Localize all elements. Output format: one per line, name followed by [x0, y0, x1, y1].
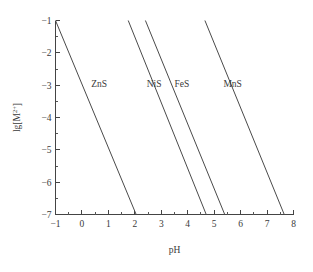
y-tick-label: −6 [41, 178, 51, 188]
x-tick-label: 8 [291, 219, 296, 229]
y-axis-ticks [56, 21, 61, 215]
series-label-fes: FeS [175, 79, 190, 89]
x-axis-title: pH [169, 245, 181, 255]
x-tick-label: 1 [106, 219, 111, 229]
x-tick-label: 6 [238, 219, 243, 229]
y-axis-title: lg[M2+] [11, 103, 22, 132]
x-tick-label: 5 [212, 219, 217, 229]
sulfide-solubility-chart: −1012345678 −1−2−3−4−5−6−7 ZnSNiSFeSMnS … [0, 0, 313, 272]
y-tick-label: −4 [41, 113, 51, 123]
x-tick-label: 4 [185, 219, 190, 229]
series-label-zns: ZnS [91, 79, 107, 89]
y-axis-title-text: lg[M2+] [11, 103, 22, 132]
x-axis-tick-labels: −1012345678 [50, 219, 296, 229]
series-annotations: ZnSNiSFeSMnS [91, 79, 242, 89]
y-axis-tick-labels: −1−2−3−4−5−6−7 [41, 16, 51, 220]
series-line-fes [145, 21, 224, 215]
y-axis-title-base: lg[M [12, 112, 22, 132]
axes-group [56, 21, 294, 215]
chart-figure: −1012345678 −1−2−3−4−5−6−7 ZnSNiSFeSMnS … [0, 0, 313, 272]
y-tick-label: −3 [41, 81, 51, 91]
data-series-lines [56, 21, 285, 215]
series-line-zns [56, 21, 137, 215]
y-tick-label: −2 [41, 48, 51, 58]
x-tick-label: 0 [80, 219, 85, 229]
x-axis-ticks [56, 210, 294, 215]
y-tick-label: −5 [41, 145, 51, 155]
x-tick-label: 7 [265, 219, 270, 229]
series-label-mns: MnS [223, 79, 241, 89]
x-tick-label: 2 [132, 219, 137, 229]
y-tick-label: −7 [41, 210, 51, 220]
x-tick-label: 3 [159, 219, 164, 229]
y-tick-label: −1 [41, 16, 51, 26]
x-tick-label: −1 [50, 219, 60, 229]
y-axis-title-tail: ] [12, 103, 22, 106]
series-label-nis: NiS [147, 79, 162, 89]
series-line-mns [205, 21, 284, 215]
series-line-nis [128, 21, 206, 215]
